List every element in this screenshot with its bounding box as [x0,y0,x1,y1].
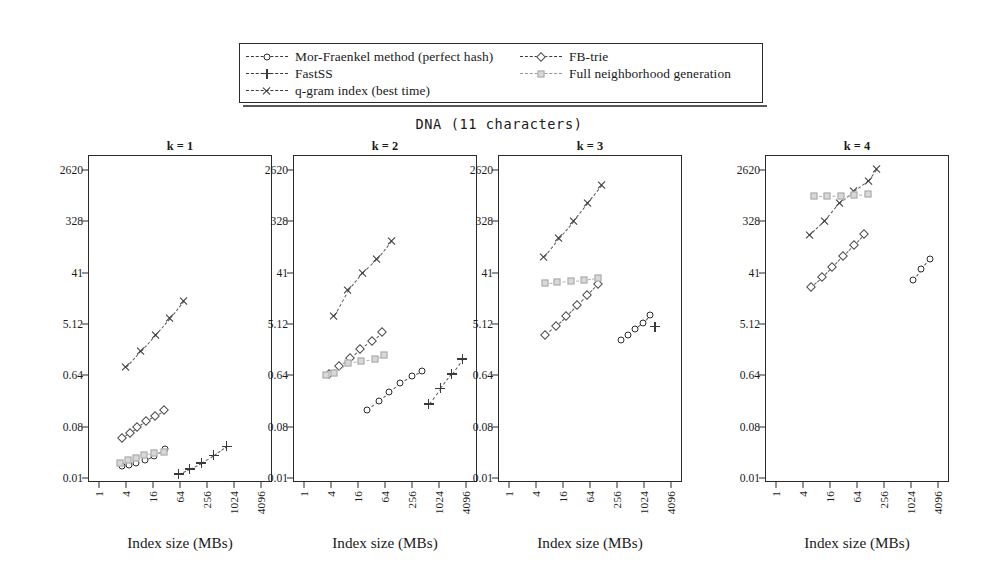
data-point [554,233,564,243]
data-point [861,230,868,237]
circle-marker [647,311,654,318]
diamond-marker [551,321,561,331]
legend-label: Mor-Fraenkel method (perfect hash) [295,49,493,65]
y-tick-label: 328 [66,215,83,228]
data-point [132,454,139,461]
circle-marker [408,373,415,380]
x-tick-mark [99,482,100,488]
cross-marker [262,86,272,96]
x-tick-label: 16 [824,491,836,503]
data-point [357,268,367,278]
x-tick-mark [536,482,537,488]
square-marker [837,192,844,199]
diamond-marker [572,300,582,310]
legend-entry: q-gram index (best time) [246,82,493,99]
x-tick-mark [617,482,618,488]
cross-marker [343,285,353,295]
data-point [357,346,364,353]
x-tick-mark [938,482,939,488]
square-marker [567,278,574,285]
x-tick-label: 64 [174,491,186,503]
data-point [174,469,184,479]
plus-marker [262,69,272,79]
data-point [807,283,814,290]
diamond-marker [849,240,859,250]
chart-panel-4: k = 42620328415.120.640.080.011416642561… [765,155,949,482]
data-point [196,458,206,468]
diamond-marker [536,52,546,62]
y-tick-label: 0.08 [473,420,493,433]
panel-strip-label: k = 2 [293,138,477,154]
data-point [185,464,195,474]
data-point [126,429,133,436]
diamond-marker [859,229,869,239]
x-tick-mark [911,482,912,488]
data-point [910,276,917,283]
x-tick-mark [466,482,467,488]
square-marker [132,454,139,461]
plot-area [498,155,682,482]
y-tick-label: 2620 [60,164,83,177]
plus-marker [196,458,206,468]
y-tick-label: 0.01 [740,472,760,485]
data-point [542,279,549,286]
y-tick-label: 0.64 [473,369,493,382]
y-tick-label: 5.12 [473,317,493,330]
data-point [323,371,330,378]
x-tick-label: 1 [298,491,310,497]
cross-marker [568,216,578,226]
cross-marker [804,230,814,240]
data-point [584,292,591,299]
x-tick-label: 64 [851,491,863,503]
data-point [408,373,415,380]
square-marker [124,457,131,464]
y-tick-label: 0.08 [63,420,83,433]
x-tick-label: 256 [406,491,418,508]
panel-strip-label: k = 3 [498,138,682,154]
y-tick-label: 328 [271,215,288,228]
data-point [594,274,601,281]
data-point [209,450,219,460]
x-tick-label: 4096 [255,491,267,514]
data-point [568,216,578,226]
cross-marker [597,180,607,190]
x-axis-label: Index size (MBs) [498,534,682,552]
square-marker [594,274,601,281]
x-axis-label: Index size (MBs) [765,534,949,552]
x-tick-mark [331,482,332,488]
x-tick-mark [776,482,777,488]
data-point [165,313,175,323]
plus-marker [174,469,184,479]
data-point [539,252,549,262]
plus-marker [447,369,457,379]
legend-key [246,48,288,65]
data-point [567,278,574,285]
plot-area [293,155,477,482]
data-point [344,360,351,367]
data-point [386,236,396,246]
diamond-marker [355,344,365,354]
data-point [864,191,871,198]
data-point [647,311,654,318]
data-point [372,254,382,264]
x-tick-mark [126,482,127,488]
circle-marker [419,368,426,375]
cross-marker [819,216,829,226]
data-point [151,412,158,419]
data-point [632,326,639,333]
legend-marker [538,70,545,77]
x-tick-label: 1024 [638,491,650,514]
x-tick-mark [830,482,831,488]
circle-marker [364,407,371,414]
x-tick-label: 4096 [460,491,472,514]
square-marker [323,371,330,378]
x-tick-mark [412,482,413,488]
cross-marker [121,362,131,372]
x-tick-mark [385,482,386,488]
legend-label: q-gram index (best time) [295,83,430,99]
y-tick-label: 2620 [470,164,493,177]
x-tick-mark [207,482,208,488]
x-tick-label: 16 [352,491,364,503]
y-tick-label: 0.64 [268,369,288,382]
data-point [624,331,631,338]
